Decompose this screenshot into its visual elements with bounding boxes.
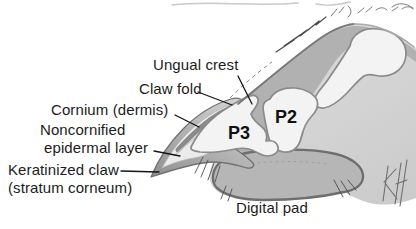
label-claw-fold: Claw fold (139, 80, 202, 98)
label-keratinized-line1: Keratinized claw (8, 161, 119, 178)
label-noncornified-line2: epidermal layer (40, 139, 148, 157)
label-keratinized-line2: (stratum corneum) (8, 179, 132, 197)
label-ungual-crest: Ungual crest (153, 56, 238, 74)
label-p3-bone: P3 (228, 123, 250, 143)
label-p2-bone: P2 (275, 107, 297, 127)
label-noncornified-line1: Noncornified (40, 121, 125, 138)
label-noncornified-epidermal-layer: Noncornified epidermal layer (40, 121, 148, 157)
label-keratinized-claw: Keratinized claw (stratum corneum) (8, 161, 132, 197)
label-cornium: Cornium (dermis) (51, 101, 168, 119)
claw-anatomy-diagram: Ungual crest Claw fold Cornium (dermis) … (0, 0, 416, 229)
label-digital-pad: Digital pad (236, 199, 308, 217)
leader-claw-fold (198, 92, 232, 105)
